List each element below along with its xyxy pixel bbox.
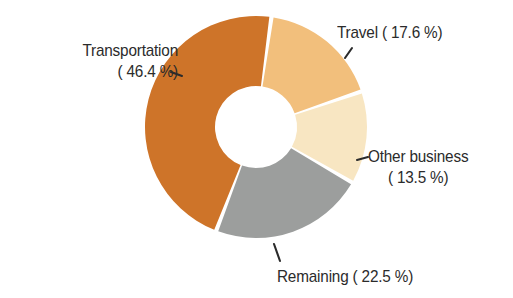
slice-label-travel-text: Travel ( 17.6 %) [337,22,442,43]
slice-label-travel: Travel ( 17.6 %) [337,22,442,43]
slice-label-remaining-text: Remaining ( 22.5 %) [277,266,413,287]
slice-label-remaining: Remaining ( 22.5 %) [277,266,413,287]
slice-label-other-business: Other business ( 13.5 %) [368,146,468,188]
donut-slices: Travel ( 17.6 %)Other business ( 13.5 %)… [145,16,367,238]
slice-label-other-business-name: Other business [368,146,468,167]
slice-label-other-business-value: ( 13.5 %) [368,167,468,188]
leader-line-remaining [274,244,280,261]
leader-line-travel [345,48,352,58]
slice-label-transportation-name: Transportation [34,40,178,61]
slice-label-transportation-value: ( 46.4 %) [34,61,178,82]
donut-chart: Travel ( 17.6 %)Other business ( 13.5 %)… [0,0,513,298]
slice-label-transportation: Transportation ( 46.4 %) [34,40,178,82]
